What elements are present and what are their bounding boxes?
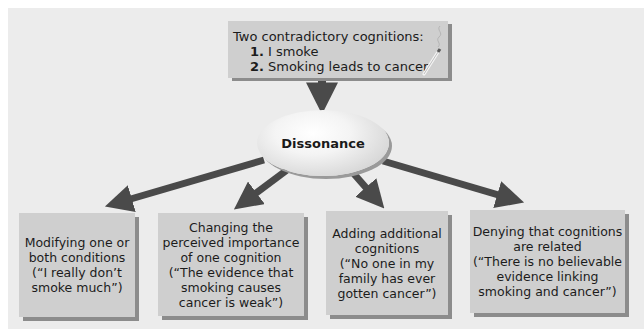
outcome-2-line-2: perceived importance (163, 235, 300, 250)
outcome-box-deny-relation: Denying that cognitions are related (“Th… (470, 210, 625, 313)
outcome-2-line-4: (“The evidence that (169, 265, 294, 280)
contradictory-cognitions-box: Two contradictory cognitions: 1.I smoke … (228, 21, 448, 78)
outcome-4-line-5: smoking and cancer”) (478, 284, 616, 299)
dissonance-node: Dissonance (257, 110, 389, 176)
cognition-text-1: I smoke (268, 44, 318, 59)
outcome-1-line-3: (“I really don’t (32, 265, 122, 280)
outcome-box-add-cognitions: Adding additional cognitions (“No one in… (326, 211, 448, 315)
outcome-1-line-4: smoke much”) (31, 280, 122, 295)
cognition-number-1: 1. (250, 44, 264, 59)
outcome-3-line-2: cognitions (355, 241, 419, 256)
outcome-3-line-3: (“No one in my (340, 256, 435, 271)
outcome-4-line-1: Denying that cognitions (473, 224, 623, 239)
outcome-2-line-3: of one cognition (180, 250, 281, 265)
outcome-box-modify: Modifying one or both conditions (“I rea… (19, 213, 135, 317)
outcome-4-line-4: evidence linking (496, 269, 598, 284)
outcome-3-line-4: family has ever (339, 271, 436, 286)
outcome-3-line-5: gotten cancer”) (337, 286, 436, 301)
outcome-2-line-1: Changing the (189, 220, 273, 235)
cognition-number-2: 2. (250, 59, 264, 74)
cognitions-title: Two contradictory cognitions: (233, 29, 448, 44)
dissonance-label: Dissonance (281, 136, 364, 151)
outcome-3-line-1: Adding additional (332, 226, 442, 241)
outcome-box-change-importance: Changing the perceived importance of one… (158, 213, 304, 316)
cognition-item-2: 2.Smoking leads to cancer (233, 59, 448, 74)
outcome-1-line-1: Modifying one or (25, 235, 130, 250)
cigarette-icon (418, 24, 452, 78)
outcome-4-line-2: are related (513, 239, 581, 254)
outcome-2-line-6: cancer is weak”) (179, 295, 283, 310)
outcome-2-line-5: smoking causes (181, 280, 281, 295)
cognition-text-2: Smoking leads to cancer (268, 59, 428, 74)
outcome-1-line-2: both conditions (29, 250, 126, 265)
cognition-item-1: 1.I smoke (233, 44, 448, 59)
outcome-4-line-3: (“There is no believable (473, 254, 622, 269)
